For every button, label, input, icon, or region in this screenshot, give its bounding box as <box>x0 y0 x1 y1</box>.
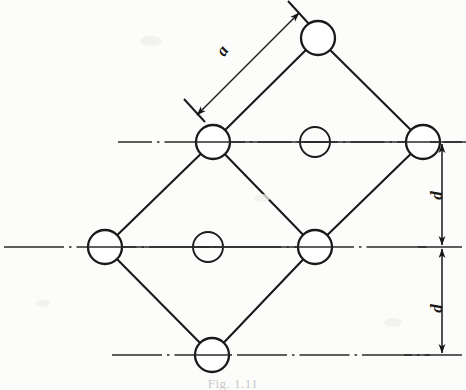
edge-mid-left-to-row2-right <box>213 142 315 247</box>
dimension-a-group <box>184 1 309 122</box>
edge-top-to-mid-right <box>318 38 423 142</box>
edge-mid-left-to-far-left <box>105 142 213 247</box>
dimension-label-d-lower: d <box>428 304 445 313</box>
center-lines-group <box>4 142 466 355</box>
node-top <box>301 21 335 55</box>
figure-caption: Fig. 1.11 <box>0 376 466 390</box>
center-line-overlay-group <box>88 142 440 355</box>
edge-bottom-to-row2-right <box>212 247 315 355</box>
edge-mid-right-to-row2-right <box>315 142 423 247</box>
lattice-diagram-svg <box>0 0 466 390</box>
lattice-nodes-group <box>88 21 440 372</box>
dimension-a-arrow-line <box>197 13 299 115</box>
figure-container: a d d Fig. 1.11 <box>0 0 466 390</box>
dimension-witness-ticks <box>404 142 462 355</box>
lattice-edges-group <box>105 38 423 355</box>
dimension-label-d-upper: d <box>428 191 445 200</box>
edge-far-left-to-bottom <box>105 247 212 355</box>
